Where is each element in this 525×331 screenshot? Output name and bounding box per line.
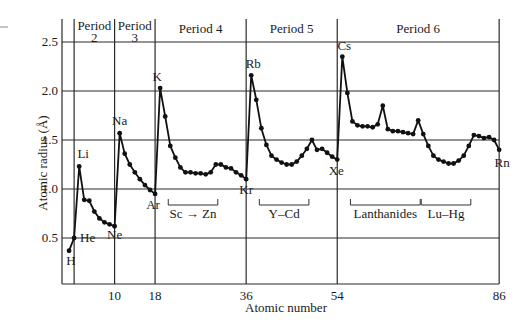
data-point bbox=[320, 146, 325, 151]
bracket bbox=[350, 199, 420, 205]
bracket-label: Lu–Hg bbox=[428, 206, 465, 221]
period-labels: Period2Period3Period 4Period 5Period 6 bbox=[77, 18, 440, 45]
data-point bbox=[391, 129, 396, 134]
data-point bbox=[325, 150, 330, 155]
data-point bbox=[274, 157, 279, 162]
data-point bbox=[345, 91, 350, 96]
data-point bbox=[461, 153, 466, 158]
element-label: K bbox=[152, 69, 162, 84]
data-point bbox=[249, 73, 254, 78]
data-point bbox=[92, 209, 97, 214]
data-point bbox=[239, 173, 244, 178]
period-number: 3 bbox=[132, 30, 139, 45]
data-point bbox=[208, 170, 213, 175]
data-point bbox=[107, 222, 112, 227]
data-point bbox=[77, 164, 82, 169]
x-tick-label: 18 bbox=[149, 288, 162, 303]
element-label: Rb bbox=[246, 56, 261, 71]
data-point bbox=[385, 127, 390, 132]
element-label: Ne bbox=[107, 227, 122, 242]
data-point bbox=[401, 130, 406, 135]
period-label: Period 6 bbox=[396, 21, 440, 36]
x-axis-label: Atomic number bbox=[245, 300, 328, 315]
bracket-label: Lanthanides bbox=[354, 206, 418, 221]
data-point bbox=[340, 54, 345, 59]
data-point bbox=[173, 155, 178, 160]
data-point bbox=[421, 132, 426, 137]
data-point bbox=[254, 97, 259, 102]
data-point bbox=[132, 170, 137, 175]
data-point bbox=[315, 147, 320, 152]
data-point bbox=[299, 153, 304, 158]
data-point bbox=[482, 136, 487, 141]
bracket-label: Y–Cd bbox=[269, 206, 301, 221]
data-point bbox=[117, 131, 122, 136]
element-label: Cs bbox=[337, 38, 351, 53]
data-point bbox=[178, 165, 183, 170]
data-point bbox=[497, 147, 502, 152]
data-point bbox=[492, 138, 497, 143]
data-point bbox=[411, 132, 416, 137]
data-point bbox=[97, 216, 102, 221]
period-label: Period 5 bbox=[270, 21, 314, 36]
data-point bbox=[72, 236, 77, 241]
data-point bbox=[289, 162, 294, 167]
data-point bbox=[304, 146, 309, 151]
data-series bbox=[67, 54, 502, 253]
data-point bbox=[198, 171, 203, 176]
period-boundaries bbox=[74, 19, 499, 284]
data-point bbox=[456, 158, 461, 163]
data-point bbox=[431, 153, 436, 158]
data-point bbox=[158, 86, 163, 91]
y-tick-label: 2.0 bbox=[42, 83, 58, 98]
period-label: Period 4 bbox=[179, 21, 223, 36]
data-point bbox=[183, 170, 188, 175]
data-point bbox=[188, 170, 193, 175]
data-point bbox=[229, 166, 234, 171]
data-point bbox=[213, 162, 218, 167]
period-number: 2 bbox=[91, 30, 98, 45]
data-point bbox=[416, 118, 421, 123]
data-point bbox=[269, 153, 274, 158]
data-point bbox=[168, 143, 173, 148]
data-point bbox=[122, 151, 127, 156]
bracket-label: Sc → Zn bbox=[170, 206, 217, 221]
data-point bbox=[446, 161, 451, 166]
data-point bbox=[143, 183, 148, 188]
data-point bbox=[294, 159, 299, 164]
element-label: H bbox=[66, 253, 75, 268]
data-point bbox=[279, 160, 284, 165]
data-point bbox=[87, 198, 92, 203]
data-point bbox=[360, 124, 365, 129]
element-label: Kr bbox=[239, 182, 253, 197]
data-point bbox=[193, 171, 198, 176]
x-tick-label: 10 bbox=[108, 288, 121, 303]
element-label: Ar bbox=[146, 197, 160, 212]
data-point bbox=[370, 125, 375, 130]
data-point bbox=[350, 119, 355, 124]
data-point bbox=[466, 143, 471, 148]
data-point bbox=[82, 197, 87, 202]
data-point bbox=[477, 134, 482, 139]
block-brackets: Sc → ZnY–CdLanthanidesLu–Hg bbox=[168, 199, 471, 221]
y-tick-label: 0.5 bbox=[42, 230, 58, 245]
data-point bbox=[451, 161, 456, 166]
data-point bbox=[224, 165, 229, 170]
data-point bbox=[244, 177, 249, 182]
element-label: Li bbox=[77, 146, 89, 161]
data-point bbox=[330, 154, 335, 159]
data-point bbox=[218, 162, 223, 167]
data-point bbox=[102, 220, 107, 225]
data-point bbox=[284, 162, 289, 167]
data-point bbox=[234, 170, 239, 175]
element-label: He bbox=[80, 230, 95, 245]
element-label: Rn bbox=[495, 155, 511, 170]
data-point bbox=[396, 129, 401, 134]
data-point bbox=[310, 138, 315, 143]
atomic-radius-chart: Period2Period3Period 4Period 5Period 6 0… bbox=[0, 0, 525, 331]
y-tick-label: 2.5 bbox=[42, 34, 58, 49]
data-point bbox=[138, 177, 143, 182]
data-point bbox=[264, 143, 269, 148]
data-point bbox=[259, 126, 264, 131]
data-point bbox=[406, 131, 411, 136]
